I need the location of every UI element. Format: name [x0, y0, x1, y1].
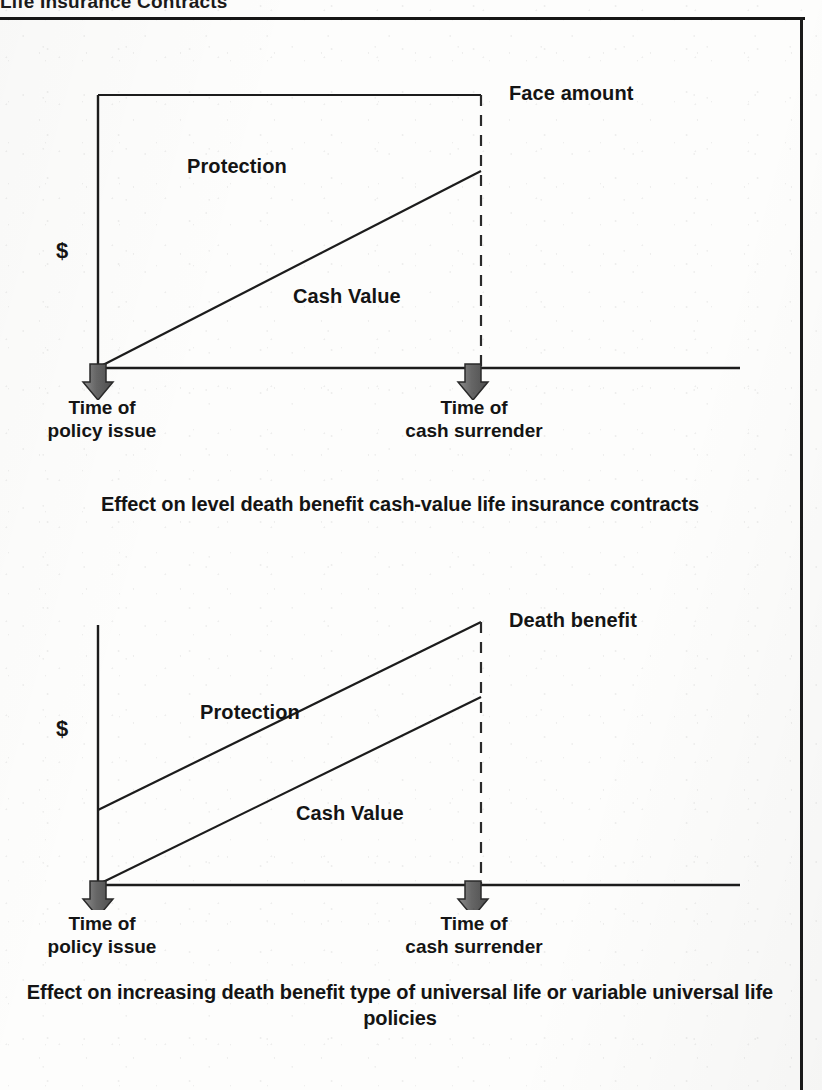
- cash-surrender-arrow-icon: [458, 364, 488, 400]
- death-benefit-label: Death benefit: [509, 609, 637, 632]
- face-amount-label: Face amount: [509, 82, 633, 105]
- y-axis-dollar-label: $: [56, 238, 68, 264]
- scanned-page: Life Insurance Contracts: [0, 0, 822, 1090]
- figure-increasing-death-benefit: $ Protection Cash Value Death benefit Ti…: [0, 580, 822, 1090]
- figure-level-death-benefit: $ Protection Cash Value Face amount Time…: [0, 0, 822, 530]
- figure-1-caption: Effect on level death benefit cash-value…: [0, 492, 800, 518]
- figure-2-caption: Effect on increasing death benefit type …: [0, 980, 800, 1031]
- y-axis-dollar-label: $: [56, 716, 68, 742]
- cash-value-line: [99, 171, 481, 367]
- policy-issue-caption: Time of policy issue: [28, 912, 176, 958]
- policy-issue-arrow-icon: [83, 364, 113, 400]
- chart-level-death-benefit: [0, 0, 800, 400]
- policy-issue-caption: Time of policy issue: [28, 396, 176, 442]
- cash-value-label: Cash Value: [293, 285, 401, 308]
- cash-value-label: Cash Value: [296, 802, 404, 825]
- protection-label: Protection: [200, 701, 300, 724]
- cash-value-line: [99, 697, 481, 884]
- chart-increasing-death-benefit: [0, 580, 800, 910]
- cash-surrender-caption: Time of cash surrender: [371, 396, 577, 442]
- cash-surrender-caption: Time of cash surrender: [371, 912, 577, 958]
- protection-label: Protection: [187, 155, 287, 178]
